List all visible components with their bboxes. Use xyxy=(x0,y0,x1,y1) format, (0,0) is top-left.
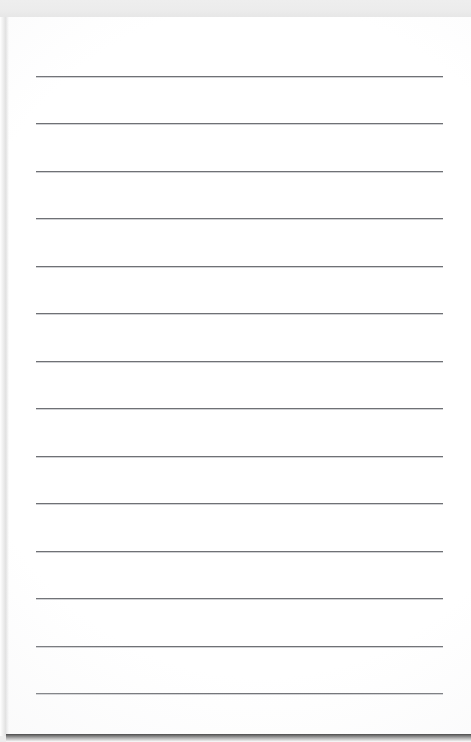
rule-line xyxy=(36,266,443,267)
scanned-page-canvas xyxy=(0,0,471,742)
rule-line xyxy=(36,693,443,694)
page-edge-left xyxy=(6,17,9,736)
paper-sheet xyxy=(6,17,471,736)
rule-line xyxy=(36,551,443,552)
rule-line xyxy=(36,218,443,219)
rule-line xyxy=(36,313,443,314)
rule-line xyxy=(36,123,443,124)
rule-line xyxy=(36,598,443,599)
rule-line xyxy=(36,503,443,504)
rule-line xyxy=(36,456,443,457)
rule-line xyxy=(36,171,443,172)
rule-line xyxy=(36,361,443,362)
rule-line xyxy=(36,408,443,409)
rule-line xyxy=(36,76,443,77)
paper-scan-tint xyxy=(6,17,471,736)
rule-line xyxy=(36,646,443,647)
